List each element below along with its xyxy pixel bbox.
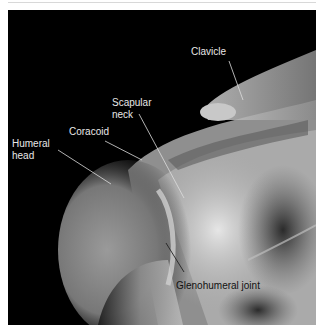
xray-rendering [8, 10, 316, 325]
label-clavicle: Clavicle [191, 46, 226, 58]
xray-image: Clavicle Scapular neck Coracoid Humeral … [8, 10, 316, 325]
label-humeral-head: Humeral head [12, 138, 50, 162]
label-scapular-neck-line1: Scapular [112, 97, 151, 109]
label-scapular-neck: Scapular neck [112, 97, 151, 121]
label-humeral-head-line2: head [12, 150, 50, 162]
label-glenohumeral-joint: Glenohumeral joint [176, 280, 260, 292]
label-humeral-head-line1: Humeral [12, 138, 50, 150]
label-scapular-neck-line2: neck [112, 109, 151, 121]
label-coracoid: Coracoid [69, 126, 109, 138]
top-rule [8, 2, 316, 3]
